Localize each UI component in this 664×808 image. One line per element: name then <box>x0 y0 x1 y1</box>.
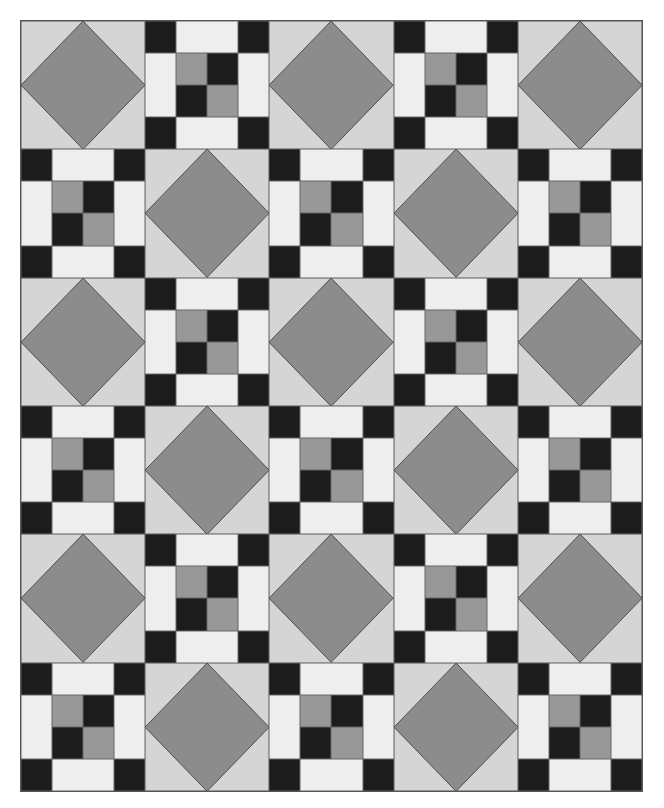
white-patch <box>611 181 642 245</box>
gray-patch <box>331 727 362 759</box>
black-patch <box>21 759 52 791</box>
diamond-shape <box>21 278 145 406</box>
white-patch <box>238 310 269 374</box>
black-patch <box>176 598 207 630</box>
white-patch <box>21 695 52 759</box>
gray-patch <box>176 310 207 342</box>
nine-patch-block <box>269 406 393 534</box>
black-patch <box>238 534 269 566</box>
gray-patch <box>176 53 207 85</box>
white-patch <box>114 181 145 245</box>
white-patch <box>363 438 394 502</box>
diamond-block <box>518 278 642 406</box>
white-patch <box>487 566 518 630</box>
diamond-block <box>145 406 269 534</box>
gray-patch <box>83 727 114 759</box>
gray-patch <box>549 181 580 213</box>
white-patch <box>21 438 52 502</box>
white-patch <box>21 181 52 245</box>
white-patch <box>52 149 114 181</box>
black-patch <box>114 759 145 791</box>
black-patch <box>145 278 176 310</box>
black-patch <box>269 663 300 695</box>
diamond-shape <box>394 406 518 534</box>
white-patch <box>176 374 238 406</box>
white-patch <box>176 631 238 663</box>
black-patch <box>611 406 642 438</box>
black-patch <box>487 631 518 663</box>
gray-patch <box>52 695 83 727</box>
black-patch <box>114 406 145 438</box>
black-patch <box>145 117 176 149</box>
black-patch <box>145 631 176 663</box>
black-patch <box>269 149 300 181</box>
black-patch <box>52 213 83 245</box>
nine-patch-block <box>145 534 269 662</box>
white-patch <box>363 695 394 759</box>
nine-patch-block <box>518 406 642 534</box>
black-patch <box>238 631 269 663</box>
black-patch <box>238 374 269 406</box>
black-patch <box>52 727 83 759</box>
diamond-block <box>269 278 393 406</box>
black-patch <box>363 406 394 438</box>
black-patch <box>269 502 300 534</box>
black-patch <box>269 246 300 278</box>
gray-patch <box>425 566 456 598</box>
black-patch <box>269 406 300 438</box>
gray-patch <box>300 695 331 727</box>
gray-patch <box>83 213 114 245</box>
diamond-shape <box>145 149 269 277</box>
diamond-shape <box>269 21 393 149</box>
black-patch <box>207 310 238 342</box>
black-patch <box>549 470 580 502</box>
gray-patch <box>331 470 362 502</box>
diamond-shape <box>21 21 145 149</box>
black-patch <box>145 534 176 566</box>
white-patch <box>300 149 362 181</box>
diamond-block <box>394 663 518 791</box>
black-patch <box>580 181 611 213</box>
diamond-shape <box>145 663 269 791</box>
white-patch <box>300 246 362 278</box>
white-patch <box>52 246 114 278</box>
black-patch <box>487 534 518 566</box>
white-patch <box>238 53 269 117</box>
white-patch <box>487 310 518 374</box>
black-patch <box>611 502 642 534</box>
black-patch <box>549 213 580 245</box>
diamond-block <box>269 534 393 662</box>
black-patch <box>394 278 425 310</box>
white-patch <box>269 438 300 502</box>
diamond-shape <box>145 406 269 534</box>
diamond-block <box>269 21 393 149</box>
black-patch <box>331 438 362 470</box>
black-patch <box>487 117 518 149</box>
black-patch <box>83 438 114 470</box>
black-patch <box>21 502 52 534</box>
black-patch <box>518 663 549 695</box>
black-patch <box>518 149 549 181</box>
white-patch <box>52 502 114 534</box>
white-patch <box>611 438 642 502</box>
white-patch <box>394 310 425 374</box>
black-patch <box>207 566 238 598</box>
black-patch <box>549 727 580 759</box>
black-patch <box>207 53 238 85</box>
gray-patch <box>83 470 114 502</box>
nine-patch-block <box>145 278 269 406</box>
black-patch <box>331 695 362 727</box>
black-patch <box>518 502 549 534</box>
white-patch <box>425 631 487 663</box>
white-patch <box>549 663 611 695</box>
white-patch <box>394 566 425 630</box>
white-patch <box>549 759 611 791</box>
white-patch <box>518 438 549 502</box>
diamond-block <box>394 149 518 277</box>
white-patch <box>425 278 487 310</box>
black-patch <box>580 695 611 727</box>
white-patch <box>518 695 549 759</box>
white-patch <box>145 566 176 630</box>
black-patch <box>518 406 549 438</box>
nine-patch-block <box>145 21 269 149</box>
